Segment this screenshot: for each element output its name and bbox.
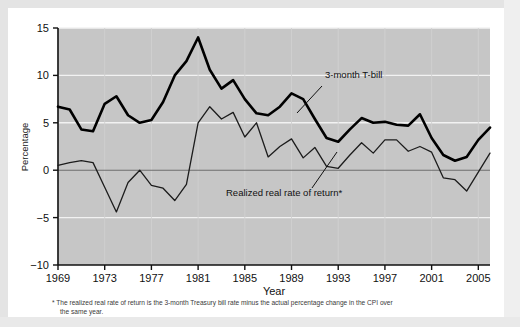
plot-background	[58, 28, 490, 265]
x-axis-title: Year	[263, 285, 286, 297]
y-axis-title: Percentage	[19, 123, 30, 172]
line-chart: 151050−5−10 1969197319771981198519891993…	[0, 0, 520, 327]
y-tick-label: 10	[37, 69, 49, 81]
y-tick-label: 15	[37, 22, 49, 34]
y-tick-label: 0	[43, 164, 49, 176]
footnote-line-2: the same year.	[60, 308, 103, 316]
x-tick-label: 1993	[326, 272, 350, 284]
x-tick-label: 1985	[233, 272, 257, 284]
y-tick-label: −10	[30, 259, 49, 271]
x-axis-ticks: 1969197319771981198519891993199720012005	[46, 265, 491, 284]
x-tick-label: 1973	[92, 272, 116, 284]
y-tick-label: 5	[43, 117, 49, 129]
x-tick-label: 1997	[373, 272, 397, 284]
y-axis-ticks: 151050−5−10	[30, 22, 58, 271]
x-tick-label: 1977	[139, 272, 163, 284]
x-tick-label: 1989	[279, 272, 303, 284]
chart-container: 151050−5−10 1969197319771981198519891993…	[0, 0, 520, 327]
x-tick-label: 2005	[466, 272, 490, 284]
x-tick-label: 1981	[186, 272, 210, 284]
footnote-line-1: * The realized real rate of return is th…	[52, 299, 394, 307]
y-tick-label: −5	[36, 212, 49, 224]
annotation-tbill: 3-month T-bill	[325, 69, 382, 80]
x-tick-label: 1969	[46, 272, 70, 284]
x-tick-label: 2001	[419, 272, 443, 284]
annotation-real-rate: Realized real rate of return*	[226, 187, 342, 198]
